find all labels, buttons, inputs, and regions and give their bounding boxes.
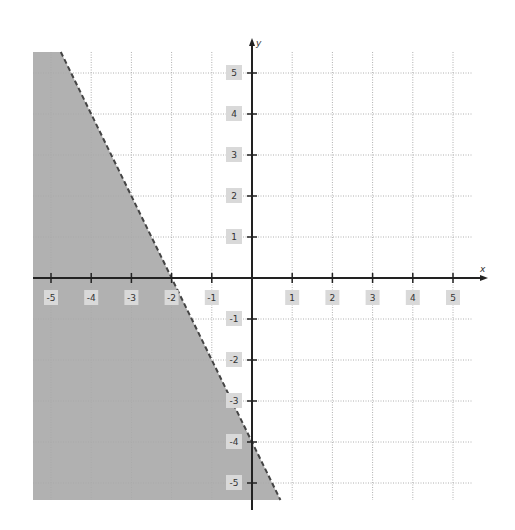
shaded-region [33,52,280,500]
x-axis-arrow-icon [480,275,488,281]
x-tick-label: -1 [207,293,216,303]
y-axis-arrow-icon [249,38,255,46]
y-axis-label: y [255,38,262,48]
x-axis-label: x [479,264,486,274]
inequality-graph: -5-4-3-2-11234554321-1-2-3-4-5 x y [0,0,515,530]
y-tick-label: -2 [230,355,239,365]
x-tick-label: -4 [87,293,96,303]
y-tick-label: -3 [230,396,239,406]
y-tick-label: 3 [231,150,237,160]
y-tick-label: -4 [230,437,239,447]
x-tick-label: 4 [410,293,416,303]
y-tick-label: 1 [231,232,237,242]
x-tick-label: -5 [47,293,56,303]
y-tick-label: 4 [231,109,237,119]
y-tick-label: -1 [230,314,239,324]
x-tick-label: 1 [289,293,295,303]
x-tick-label: 3 [370,293,376,303]
y-tick-label: -5 [230,478,239,488]
x-tick-label: 5 [450,293,456,303]
x-tick-label: 2 [330,293,336,303]
x-tick-label: -2 [167,293,176,303]
y-tick-label: 5 [231,68,237,78]
x-tick-label: -3 [127,293,136,303]
y-tick-label: 2 [231,191,237,201]
